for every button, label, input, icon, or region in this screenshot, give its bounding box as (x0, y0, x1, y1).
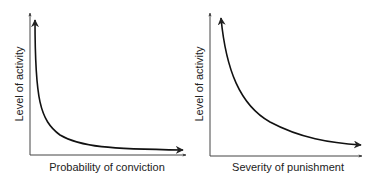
right-chart: Severity of punishment Level of activity (193, 13, 362, 173)
left-curve (35, 20, 183, 150)
right-y-label: Level of activity (193, 46, 205, 122)
diagram: Probability of conviction Level of activ… (0, 0, 377, 182)
left-x-label: Probability of conviction (49, 161, 165, 173)
right-x-label: Severity of punishment (232, 161, 344, 173)
right-curve (221, 18, 361, 145)
left-chart: Probability of conviction Level of activ… (13, 13, 186, 173)
left-y-label: Level of activity (13, 46, 25, 122)
